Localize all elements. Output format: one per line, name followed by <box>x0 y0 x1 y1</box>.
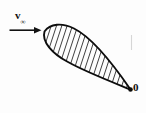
origin-label: 0 <box>133 82 139 93</box>
freestream-velocity-symbol: v <box>15 9 21 21</box>
figure-container: v∞ 0 <box>0 0 146 113</box>
freestream-arrow-icon <box>10 27 42 34</box>
airfoil-outline <box>44 25 131 90</box>
freestream-velocity-subscript: ∞ <box>21 18 26 26</box>
freestream-velocity-label: v∞ <box>15 10 26 24</box>
body-hatching <box>28 0 146 113</box>
